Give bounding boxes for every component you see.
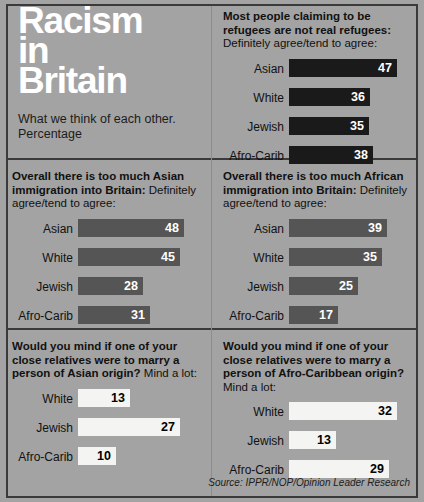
- bar-value: 39: [368, 222, 387, 235]
- bar-fill: 47: [289, 59, 397, 77]
- bar-fill: 48: [78, 219, 184, 237]
- bar-row: Jewish28: [12, 275, 199, 299]
- bar-fill: 13: [289, 431, 336, 449]
- row-bottom: Would you mind if one of your close rela…: [0, 330, 424, 502]
- bar-fill: 29: [289, 460, 389, 478]
- bar-label: White: [223, 91, 289, 105]
- infographic-root: Racism in Britain What we think of each …: [0, 0, 424, 502]
- bar-track: 47: [289, 59, 397, 79]
- panel-marry-afro-caribbean-question: Would you mind if one of your close rela…: [223, 340, 412, 394]
- bar-label: Asian: [223, 222, 289, 236]
- question-sub: Definitely agree/tend to agree:: [223, 37, 377, 49]
- bar-value: 35: [363, 251, 382, 264]
- panel-refugees-question: Most people claiming to be refugees are …: [223, 10, 412, 51]
- question-bold: Would you mind if one of your close rela…: [223, 340, 404, 379]
- masthead-subtitle: What we think of each other. Percentage: [18, 112, 178, 142]
- question-bold: Most people claiming to be refugees are …: [223, 10, 391, 36]
- title-line-3: Britain: [18, 66, 211, 96]
- bar-label: White: [223, 405, 289, 419]
- bar-fill: 32: [289, 402, 397, 420]
- bar-label: White: [12, 392, 78, 406]
- bar-row: Asian48: [12, 217, 199, 241]
- bar-track: 39: [289, 219, 387, 239]
- page-title: Racism in Britain: [18, 6, 211, 96]
- panel-refugees-chart: Asian47White36Jewish35Afro-Carib38: [223, 57, 412, 168]
- bar-label: Afro-Carib: [223, 463, 289, 477]
- bar-fill: 35: [289, 117, 369, 135]
- bar-row: Asian39: [223, 217, 412, 241]
- bar-label: Jewish: [223, 280, 289, 294]
- bar-value: 35: [350, 120, 369, 133]
- bar-value: 13: [317, 434, 336, 447]
- row-top: Racism in Britain What we think of each …: [0, 0, 424, 160]
- bar-label: White: [12, 251, 78, 265]
- panel-african-immigration-question: Overall there is too much African immigr…: [223, 170, 412, 211]
- panel-asian-immigration: Overall there is too much Asian immigrat…: [0, 160, 211, 330]
- bar-track: 13: [78, 389, 130, 409]
- bar-label: Afro-Carib: [12, 309, 78, 323]
- bar-track: 17: [289, 306, 338, 326]
- bar-row: Jewish25: [223, 275, 412, 299]
- bar-row: Jewish35: [223, 115, 412, 139]
- bar-fill: 17: [289, 306, 338, 324]
- bar-row: Asian47: [223, 57, 412, 81]
- bar-track: 13: [289, 431, 336, 451]
- bar-row: Afro-Carib31: [12, 304, 199, 328]
- bar-fill: 28: [78, 277, 143, 295]
- bar-track: 25: [289, 277, 358, 297]
- bar-label: Afro-Carib: [223, 309, 289, 323]
- bar-label: White: [223, 251, 289, 265]
- bar-value: 28: [124, 280, 143, 293]
- panel-marry-afro-caribbean-chart: White32Jewish13Afro-Carib29: [223, 400, 412, 482]
- bar-fill: 10: [78, 447, 116, 465]
- bar-track: 45: [78, 248, 180, 268]
- bar-row: White32: [223, 400, 412, 424]
- panel-asian-immigration-question: Overall there is too much Asian immigrat…: [12, 170, 199, 211]
- panel-marry-afro-caribbean: Would you mind if one of your close rela…: [211, 330, 424, 502]
- bar-value: 13: [111, 392, 130, 405]
- bar-fill: 31: [78, 306, 150, 324]
- bar-fill: 35: [289, 248, 382, 266]
- bar-fill: 36: [289, 88, 370, 106]
- bar-label: Jewish: [223, 120, 289, 134]
- bar-label: Asian: [223, 62, 289, 76]
- bar-fill: 39: [289, 219, 387, 237]
- question-sub: Mind a lot:: [144, 367, 197, 379]
- bar-label: Jewish: [12, 280, 78, 294]
- bar-track: 48: [78, 219, 184, 239]
- masthead-panel: Racism in Britain What we think of each …: [0, 0, 211, 160]
- bar-row: Jewish13: [223, 429, 412, 453]
- bar-value: 36: [351, 91, 370, 104]
- bar-fill: 45: [78, 248, 180, 266]
- bar-track: 28: [78, 277, 143, 297]
- bar-track: 27: [78, 418, 180, 438]
- bar-track: 32: [289, 402, 397, 422]
- bar-fill: 13: [78, 389, 130, 407]
- panel-refugees: Most people claiming to be refugees are …: [211, 0, 424, 160]
- source-credit: Source: IPPR/NOP/Opinion Leader Research: [208, 477, 410, 488]
- bar-value: 45: [161, 251, 180, 264]
- bar-label: Jewish: [223, 434, 289, 448]
- panel-marry-asian-chart: White13Jewish27Afro-Carib10: [12, 387, 199, 469]
- bar-label: Afro-Carib: [12, 450, 78, 464]
- bar-row: White35: [223, 246, 412, 270]
- bar-track: 31: [78, 306, 150, 326]
- bar-row: White36: [223, 86, 412, 110]
- bar-value: 17: [319, 309, 338, 322]
- panel-marry-asian: Would you mind if one of your close rela…: [0, 330, 211, 502]
- bar-label: Jewish: [12, 421, 78, 435]
- bar-row: Afro-Carib10: [12, 445, 199, 469]
- bar-value: 47: [378, 62, 397, 75]
- bar-value: 32: [378, 405, 397, 418]
- bar-value: 25: [339, 280, 358, 293]
- bar-value: 29: [370, 463, 389, 476]
- bar-track: 35: [289, 248, 382, 268]
- panel-african-immigration-chart: Asian39White35Jewish25Afro-Carib17: [223, 217, 412, 328]
- bar-row: Afro-Carib17: [223, 304, 412, 328]
- bar-row: Jewish27: [12, 416, 199, 440]
- bar-fill: 27: [78, 418, 180, 436]
- bar-row: White13: [12, 387, 199, 411]
- bar-row: White45: [12, 246, 199, 270]
- bar-value: 10: [97, 450, 116, 463]
- bar-value: 48: [165, 222, 184, 235]
